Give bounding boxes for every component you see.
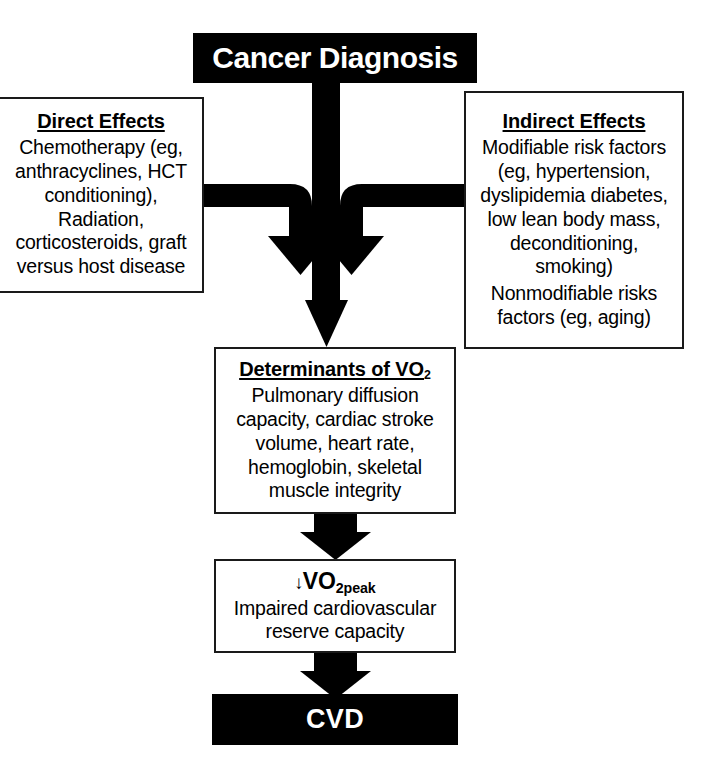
connector-center-shaft-overlay <box>312 80 340 305</box>
node-determinants-title-main: Determinants of VO <box>239 358 424 380</box>
connector-indirect-effects-to-determinants <box>319 184 465 275</box>
node-vo2peak-title-subscript: 2peak <box>336 580 376 596</box>
connector-direct-effects-to-determinants <box>204 184 333 275</box>
node-indirect-effects-body-modifiable: Modifiable risk factors (eg, hypertensio… <box>471 136 677 279</box>
node-direct-effects: Direct Effects Chemotherapy (eg, anthrac… <box>0 97 204 293</box>
connector-vo2peak-to-cvd <box>300 652 371 699</box>
node-direct-effects-body: Chemotherapy (eg, anthracyclines, HCT co… <box>6 136 196 280</box>
node-indirect-effects-title: Indirect Effects <box>503 110 646 133</box>
connector-determinants-to-vo2peak <box>300 513 371 560</box>
node-determinants: Determinants of VO2 Pulmonary diffusion … <box>214 347 456 514</box>
node-vo2peak: ↓VO2peak Impaired cardiovascular reserve… <box>214 559 456 653</box>
flowchart-canvas: Cancer Diagnosis Direct Effects Chemothe… <box>0 0 710 769</box>
node-cvd-title: CVD <box>306 704 364 735</box>
node-vo2peak-title: ↓VO2peak <box>294 568 375 596</box>
node-determinants-title: Determinants of VO2 <box>239 358 431 382</box>
node-indirect-effects-body-nonmodifiable: Nonmodifiable risks factors (eg, aging) <box>471 282 677 330</box>
node-indirect-effects: Indirect Effects Modifiable risk factors… <box>464 91 684 349</box>
node-cvd: CVD <box>212 694 458 745</box>
node-determinants-body: Pulmonary diffusion capacity, cardiac st… <box>220 384 450 503</box>
connector-cancer-diagnosis-to-determinants <box>305 80 348 347</box>
node-direct-effects-title: Direct Effects <box>37 110 165 133</box>
node-vo2peak-body: Impaired cardiovascular reserve capacity <box>220 597 450 644</box>
node-cancer-diagnosis-title: Cancer Diagnosis <box>212 43 457 73</box>
node-cancer-diagnosis: Cancer Diagnosis <box>193 33 477 83</box>
node-vo2peak-title-main: VO <box>303 568 336 594</box>
node-determinants-title-subscript: 2 <box>424 368 431 382</box>
